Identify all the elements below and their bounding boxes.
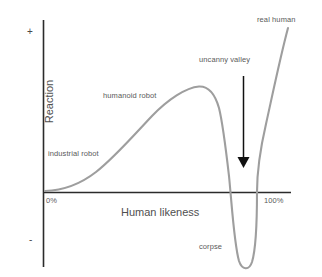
- annotation-uncanny-valley: uncanny valley: [199, 56, 250, 64]
- uncanny-valley-chart: + - 0% 100% Human likeness Reaction indu…: [0, 0, 322, 277]
- uncanny-valley-arrow-icon: [238, 76, 250, 168]
- annotation-industrial-robot: industrial robot: [48, 150, 99, 158]
- x-axis-title: Human likeness: [121, 207, 199, 218]
- axis-positive-marker: +: [27, 27, 33, 37]
- axis-negative-marker: -: [29, 235, 32, 245]
- x-tick-100-percent: 100%: [264, 197, 284, 205]
- annotation-corpse: corpse: [199, 243, 222, 251]
- x-tick-0-percent: 0%: [46, 197, 57, 205]
- annotation-real-human: real human: [257, 16, 296, 24]
- chart-canvas: [0, 0, 322, 277]
- annotation-humanoid-robot: humanoid robot: [103, 92, 157, 100]
- y-axis-title: Reaction: [44, 67, 55, 137]
